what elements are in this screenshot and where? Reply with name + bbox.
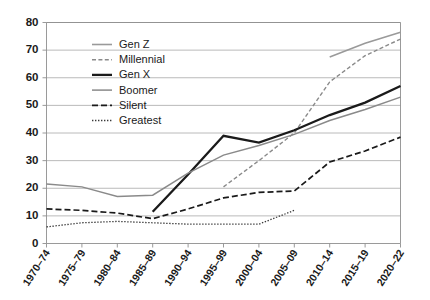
x-axis-tick-labels: 1970–741975–791980–841985–891990–941995–… bbox=[20, 247, 406, 288]
series-line-greatest bbox=[47, 210, 295, 227]
x-tick-label: 1975–79 bbox=[55, 247, 87, 288]
x-tick-label: 1980–84 bbox=[91, 247, 123, 288]
x-tick-label: 1995–99 bbox=[197, 247, 229, 288]
series-line-millennial bbox=[224, 39, 401, 187]
data-series bbox=[47, 32, 401, 227]
x-tick-label: 2020–22 bbox=[374, 247, 406, 288]
y-tick-label: 10 bbox=[26, 209, 39, 221]
legend-label-millennial: Millennial bbox=[119, 53, 165, 65]
chart-legend: Gen ZMillennialGen XBoomerSilentGreatest bbox=[92, 38, 165, 126]
y-tick-label: 40 bbox=[26, 126, 39, 138]
y-tick-label: 70 bbox=[26, 43, 39, 55]
series-line-gen-x bbox=[153, 86, 401, 212]
y-tick-label: 50 bbox=[26, 98, 39, 110]
y-tick-label: 20 bbox=[26, 181, 39, 193]
x-tick-label: 1990–94 bbox=[161, 247, 193, 288]
y-tick-label: 60 bbox=[26, 71, 39, 83]
line-chart: 01020304050607080 1970–741975–791980–841… bbox=[0, 0, 430, 300]
x-tick-label: 2010–14 bbox=[303, 247, 335, 288]
y-tick-label: 80 bbox=[26, 16, 39, 28]
y-tick-label: 0 bbox=[32, 237, 38, 249]
y-axis-tick-labels: 01020304050607080 bbox=[26, 16, 39, 249]
legend-label-greatest: Greatest bbox=[119, 114, 161, 126]
x-tick-label: 1970–74 bbox=[20, 247, 52, 288]
x-tick-label: 2000–04 bbox=[232, 247, 264, 288]
x-tick-label: 2015–19 bbox=[338, 247, 370, 288]
legend-label-gen-z: Gen Z bbox=[119, 38, 150, 50]
x-tick-label: 1985–89 bbox=[126, 247, 158, 288]
series-line-gen-z bbox=[330, 32, 401, 57]
x-tick-label: 2005–09 bbox=[268, 247, 300, 288]
legend-label-boomer: Boomer bbox=[119, 84, 158, 96]
axes bbox=[43, 23, 401, 248]
legend-label-gen-x: Gen X bbox=[119, 68, 151, 80]
series-line-boomer bbox=[47, 97, 401, 196]
series-line-silent bbox=[47, 137, 401, 219]
legend-label-silent: Silent bbox=[119, 99, 147, 111]
chart-container: 01020304050607080 1970–741975–791980–841… bbox=[0, 0, 430, 300]
y-tick-label: 30 bbox=[26, 154, 39, 166]
